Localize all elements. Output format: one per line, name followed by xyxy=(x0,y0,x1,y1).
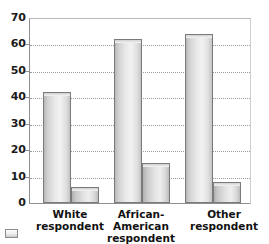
bar-other-series2 xyxy=(213,182,241,203)
bar-highlight xyxy=(115,40,141,43)
y-tick-label: 70 xyxy=(0,12,26,23)
bar-highlight xyxy=(214,183,240,186)
bar-white-series1 xyxy=(43,92,71,203)
bar-highlight xyxy=(143,164,169,167)
bar-african-american-series2 xyxy=(142,163,170,203)
bar-white-series2 xyxy=(71,187,99,203)
x-label-line1: African-American xyxy=(99,208,183,232)
y-tick-label: 10 xyxy=(0,171,26,182)
plot-area xyxy=(29,18,251,204)
bar-highlight xyxy=(72,188,98,191)
bar-other-series1 xyxy=(185,34,213,203)
x-label-line2: respondent xyxy=(182,220,266,232)
y-tick-label: 60 xyxy=(0,38,26,49)
legend-swatch-icon xyxy=(5,229,18,238)
x-label-other: Other respondent xyxy=(182,208,266,232)
bar-african-american-series1 xyxy=(114,39,142,203)
y-tick-label: 40 xyxy=(0,91,26,102)
bar-highlight xyxy=(186,35,212,38)
bar-highlight xyxy=(44,93,70,96)
x-label-african-american: African-American respondent xyxy=(99,208,183,244)
y-tick-label: 50 xyxy=(0,65,26,76)
x-label-line2: respondent xyxy=(99,232,183,244)
y-tick-label: 30 xyxy=(0,118,26,129)
y-tick-label: 0 xyxy=(0,197,26,208)
x-label-line1: Other xyxy=(182,208,266,220)
y-tick-label: 20 xyxy=(0,144,26,155)
